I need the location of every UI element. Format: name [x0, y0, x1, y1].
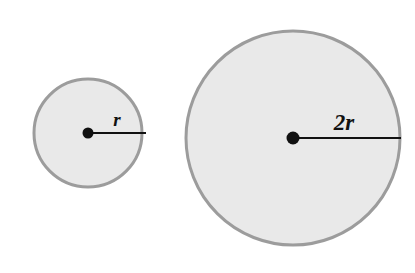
- small-circle-group: r: [34, 79, 146, 187]
- figure-canvas: r 2r: [0, 0, 415, 273]
- circles-diagram: r 2r: [0, 0, 415, 273]
- small-circle-center-dot: [83, 128, 94, 139]
- large-circle-group: 2r: [186, 31, 401, 245]
- large-circle-radius-label: 2r: [333, 110, 356, 135]
- large-circle-center-dot: [287, 132, 300, 145]
- small-circle-radius-label: r: [113, 109, 121, 130]
